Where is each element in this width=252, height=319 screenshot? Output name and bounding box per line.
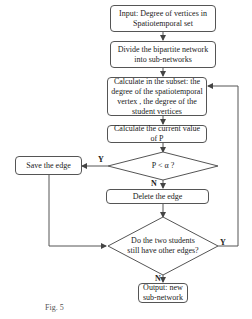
delete-edge-box: Delete the edge bbox=[106, 189, 209, 204]
input-box: Input: Degree of vertices in Spatiotempo… bbox=[110, 5, 216, 32]
output-box: Output: new sub-network bbox=[138, 283, 188, 303]
decision-p-alpha: P < α ? bbox=[140, 161, 186, 171]
label-no-1: N bbox=[151, 179, 157, 188]
label-no-2: N bbox=[155, 274, 161, 283]
figure-caption: Fig. 5 bbox=[45, 303, 64, 312]
label-yes-1: Y bbox=[98, 155, 104, 164]
label-yes-2: Y bbox=[220, 238, 226, 247]
save-edge-box: Save the edge bbox=[15, 156, 82, 175]
calc-degree-box: Calculate in the subset: the degree of t… bbox=[107, 77, 207, 116]
decision-other-edges: Do the two students still have other edg… bbox=[125, 236, 201, 256]
calc-p-box: Calculate the current value of P bbox=[107, 125, 207, 143]
divide-box: Divide the bipartite network into sub-ne… bbox=[110, 41, 216, 68]
